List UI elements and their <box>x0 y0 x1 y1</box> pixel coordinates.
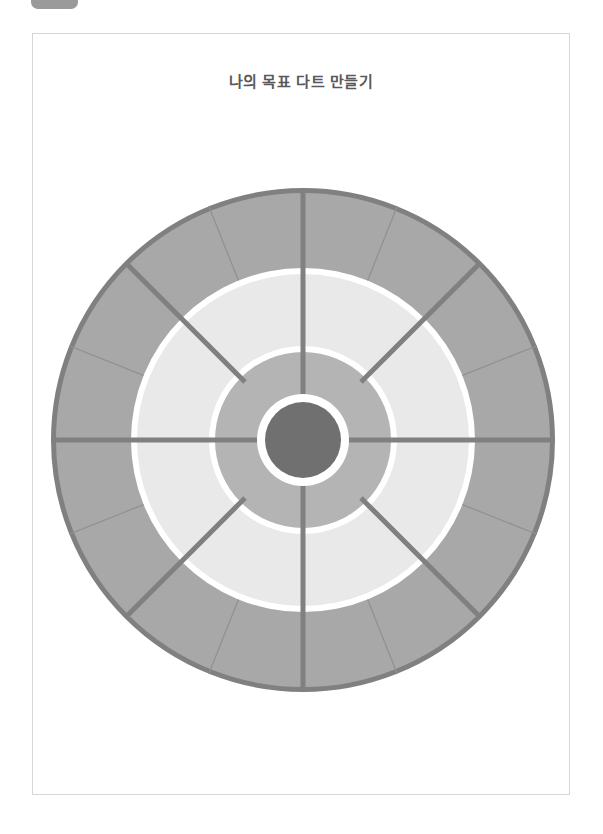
bullseye[interactable] <box>265 402 341 478</box>
goal-dart-target[interactable] <box>51 188 555 692</box>
worksheet-page: 나의 목표 다트 만들기 <box>32 33 570 795</box>
dartboard-container <box>33 34 569 794</box>
window-chrome-tab[interactable] <box>31 0 78 9</box>
worksheet-screen: 나의 목표 다트 만들기 <box>0 0 603 834</box>
